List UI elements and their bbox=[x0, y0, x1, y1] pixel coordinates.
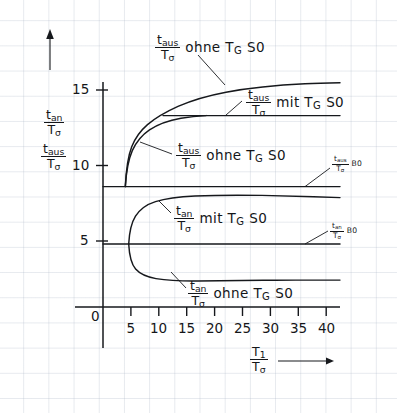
x-tick-label-10: 10 bbox=[150, 322, 167, 336]
y-tick-label-15: 15 bbox=[72, 83, 90, 97]
annotation-taus-ohne-tg-s0-mid: taus Tσ ohne TG S0 bbox=[176, 141, 286, 170]
x-tick-label-40: 40 bbox=[318, 322, 335, 336]
x-axis-arrow bbox=[278, 358, 334, 365]
y-tick-label-10: 10 bbox=[72, 159, 90, 173]
curve-tan-ohne-tg-s0 bbox=[129, 244, 340, 281]
leader-taus-mit bbox=[226, 101, 242, 115]
y-axis-title-tan: tan Tσ bbox=[44, 108, 64, 137]
leader-tan-mit bbox=[159, 201, 171, 213]
leader-tan-b0 bbox=[305, 231, 328, 244]
leader-taus-ohne-mid bbox=[140, 142, 172, 154]
leader-taus-b0 bbox=[305, 168, 330, 187]
annotation-taus-ohne-tg-s0-top: taus Tσ ohne TG S0 bbox=[155, 33, 265, 62]
origin-label: 0 bbox=[91, 310, 100, 324]
y-tick-label-5: 5 bbox=[80, 234, 89, 248]
annotation-taus-b0: taus Tσ B0 bbox=[332, 155, 362, 173]
x-tick-label-30: 30 bbox=[262, 322, 279, 336]
x-tick-label-35: 35 bbox=[290, 322, 307, 336]
annotation-tan-mit-tg-s0: tan Tσ mit TG S0 bbox=[174, 204, 267, 233]
y-tick-marks bbox=[96, 90, 108, 241]
x-axis-title: T1 Tσ bbox=[250, 345, 268, 374]
y-axis-title-taus: taus Tσ bbox=[41, 142, 66, 171]
x-tick-label-25: 25 bbox=[234, 322, 251, 336]
x-tick-label-15: 15 bbox=[178, 322, 195, 336]
x-tick-label-5: 5 bbox=[127, 322, 136, 336]
annotation-tan-b0: tan Tσ B0 bbox=[330, 222, 357, 240]
x-tick-label-20: 20 bbox=[206, 322, 223, 336]
y-axis-arrow bbox=[46, 29, 54, 70]
x-tick-marks bbox=[131, 307, 326, 316]
annotation-tan-ohne-tg-s0: tan Tσ ohne TG S0 bbox=[188, 279, 293, 308]
annotation-taus-mit-tg-s0: taus Tσ mit TG S0 bbox=[246, 88, 344, 117]
